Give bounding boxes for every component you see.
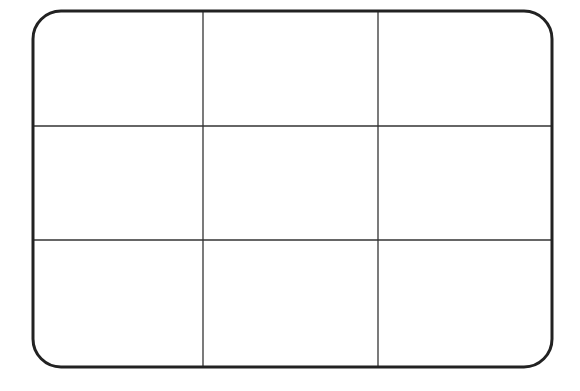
grid-diagram	[0, 0, 580, 391]
diagram-background	[0, 0, 580, 391]
